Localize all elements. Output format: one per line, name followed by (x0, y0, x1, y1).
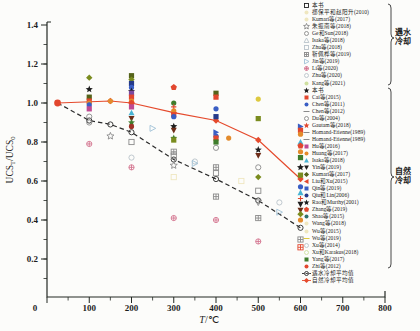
legend-item: Homand-Etienne(1989) (302, 129, 390, 136)
legend-item-label: Cai等(2015) (312, 94, 341, 101)
legend-item: 自然冷却平均值 (302, 277, 390, 284)
legend-marker-icon (302, 23, 311, 30)
legend-item: Xu和Karakus(2018) (302, 249, 390, 256)
legend-item-label: Yang等(2017) (312, 256, 344, 263)
legend-marker-icon (302, 263, 311, 270)
x-axis-title: T/℃ (199, 314, 218, 325)
legend-marker-icon (302, 16, 311, 23)
legend-item-label: Gautam等(2018) (312, 122, 351, 129)
legend-item: Yang等(2017) (302, 256, 390, 263)
legend-item: Wu等(2015) (302, 228, 390, 235)
legend-item-label: Xu等(2014) (312, 242, 340, 249)
legend-marker-icon (302, 242, 311, 249)
legend-item-label: Homand-Etienne(1989) (312, 136, 365, 143)
y-tick-label: 1.4 (27, 20, 39, 30)
legend-item-label: 自然冷却平均值 (312, 277, 354, 284)
legend-item-label: Homand-Etienne(1989) (312, 129, 365, 136)
legend-marker-icon (302, 150, 311, 157)
legend-marker-icon (302, 157, 311, 164)
y-axis-title: UCST/UCS0 (5, 137, 16, 184)
legend-item: Wu等(2019) (302, 235, 390, 242)
legend-marker-icon (302, 58, 311, 65)
legend-item: Xu等(2014) (302, 242, 390, 249)
legend-marker-icon (302, 101, 311, 108)
legend-marker-icon (302, 206, 311, 213)
x-tick-label: 200 (125, 303, 139, 313)
legend-item: Hu等(2016) (302, 143, 390, 150)
legend-item: Chen等(2012) (302, 108, 390, 115)
legend-item: 遇水冷却平均值 (302, 270, 390, 277)
legend-item: Zhu等(2020) (302, 72, 390, 79)
legend-marker-icon (302, 9, 311, 16)
legend-marker-icon (302, 270, 311, 277)
legend-item: Wang等(2018) (302, 220, 390, 227)
y-tick-label: 1.0 (27, 98, 39, 108)
legend-item-label: Xu和Karakus(2018) (312, 249, 358, 256)
x-tick-label: 100 (83, 303, 97, 313)
legend-item-label: Zhi等(2012) (312, 263, 341, 270)
y-tick-label: 0.8 (27, 137, 39, 147)
legend-marker-icon (302, 72, 311, 79)
legend-item: Du等(2004) (302, 115, 390, 122)
legend-marker-icon (302, 213, 311, 220)
series-water-avg (58, 103, 304, 230)
legend-item-label: Chen等(2012) (312, 108, 345, 115)
legend-marker-icon (302, 51, 311, 58)
legend-marker-icon (302, 37, 311, 44)
x-tick-label: 600 (294, 303, 308, 313)
legend-item: 本书 (302, 87, 390, 94)
legend-marker-icon (302, 171, 311, 178)
x-tick-label: 300 (167, 303, 181, 313)
legend-marker-icon (302, 277, 311, 284)
legend-item: Huang等(2017) (302, 150, 390, 157)
legend-item-label: Wu等(2019) (312, 235, 341, 242)
legend-marker-icon (302, 256, 311, 263)
series-natural-avg (58, 98, 304, 182)
legend-item: Kang等(2021) (302, 80, 390, 87)
x-tick-label: 500 (252, 303, 266, 313)
legend-group-label-natural-cooling: 自然冷却 (395, 168, 411, 185)
legend-marker-icon (302, 2, 311, 9)
legend-marker-icon (302, 65, 311, 72)
legend-group-label-water-cooling: 遇水冷却 (395, 29, 411, 46)
legend-item: Homand-Etienne(1989) (302, 136, 390, 143)
legend-item: Cai等(2015) (302, 94, 390, 101)
legend-item-label: Hu等(2016) (312, 143, 340, 150)
legend-item: Zhi等(2012) (302, 263, 390, 270)
legend-marker-icon (302, 122, 311, 129)
legend-item-label: Huang等(2017) (312, 150, 348, 157)
x-tick-label: 0 (33, 303, 38, 313)
legend-item-label: Kang等(2021) (312, 80, 345, 87)
x-tick-label: 400 (209, 303, 223, 313)
legend-marker-icon (302, 220, 311, 227)
legend-item-label: Zhu等(2020) (312, 72, 342, 79)
legend-marker-icon (302, 136, 311, 143)
legend-item-label: 遇水冷却平均值 (312, 270, 354, 277)
legend-item-label: 本书 (312, 2, 324, 9)
x-tick-label: 700 (336, 303, 350, 313)
legend-marker-icon (302, 228, 311, 235)
legend-marker-icon (302, 143, 311, 150)
legend-marker-icon (302, 249, 311, 256)
legend-marker-icon (302, 87, 311, 94)
legend-marker-icon (302, 80, 311, 87)
legend: 本书郤保平和赵阳升(2010)Kumari等(2017)朱振南等(2018)Ge… (302, 2, 390, 284)
y-tick-label: 1.2 (27, 59, 39, 69)
x-tick-label: 800 (378, 303, 392, 313)
legend-marker-icon (302, 94, 311, 101)
legend-marker-icon (302, 30, 311, 37)
legend-marker-icon (302, 235, 311, 242)
legend-item-label: Chen等(2011) (312, 101, 345, 108)
legend-marker-icon (302, 115, 311, 122)
legend-item-label: 本书 (312, 87, 324, 94)
legend-marker-icon (302, 192, 311, 199)
y-tick-label: 0.2 (27, 254, 39, 264)
legend-marker-icon (302, 108, 311, 115)
legend-item: 本书 (302, 2, 390, 9)
legend-marker-icon (302, 129, 311, 136)
legend-item: Chen等(2011) (302, 101, 390, 108)
legend-marker-icon (302, 44, 311, 51)
legend-marker-icon (302, 178, 311, 185)
legend-item: Gautam等(2018) (302, 122, 390, 129)
legend-item-label: Wu等(2015) (312, 228, 341, 235)
